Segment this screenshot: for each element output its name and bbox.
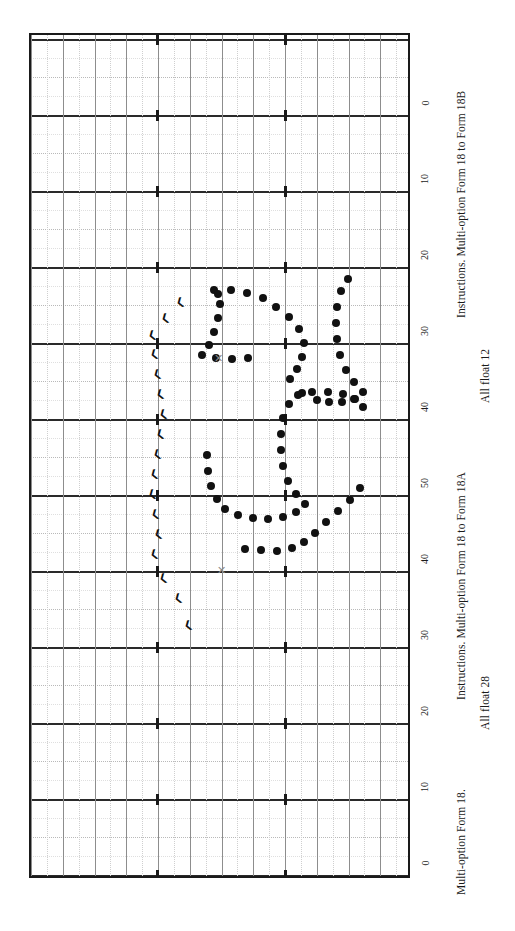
data-point-dot [346, 496, 354, 504]
data-point-dot [295, 325, 303, 333]
wind-barb-icon: ❮ [148, 548, 159, 560]
axis-tick-label-text: 50 [415, 478, 435, 488]
axis-tick-label: 20 [415, 245, 435, 285]
data-point-dot [308, 388, 316, 396]
wind-barb-icon: ❮ [157, 572, 168, 584]
data-point-dot [207, 482, 215, 490]
data-point-dot [342, 366, 350, 374]
axis-tick-label: 40 [415, 549, 435, 589]
data-point-dot [273, 547, 281, 555]
wind-barb-icon: ❮ [149, 508, 160, 520]
axis-tick-label: 30 [415, 321, 435, 361]
axis-tick-label-text: 0 [415, 101, 435, 106]
wind-barb-icon: ❮ [152, 528, 163, 540]
data-point-dot [338, 398, 346, 406]
data-point-dot [244, 354, 252, 362]
data-point-dot [234, 511, 242, 519]
data-point-dot [284, 477, 292, 485]
data-point-dot [288, 544, 296, 552]
data-point-dot [337, 287, 345, 295]
axis-tick-label-text: 10 [415, 174, 435, 184]
wind-barb-icon: ❮ [151, 368, 162, 380]
data-point-dot [279, 462, 287, 470]
data-point-dot [279, 414, 287, 422]
data-point-dot [214, 314, 222, 322]
data-point-dot [350, 378, 358, 386]
data-point-dot [277, 446, 285, 454]
axis-tick-label-text: 20 [415, 250, 435, 260]
axis-tick-label: 30 [415, 625, 435, 665]
data-point-dot [285, 400, 293, 408]
data-point-dot [334, 507, 342, 515]
data-point-dot [213, 495, 221, 503]
axis-tick-label: 0 [415, 853, 435, 893]
axis-tick-label: 50 [415, 473, 435, 513]
caption-lower-title: Multi-option Form 18. [455, 789, 467, 895]
data-point-dot [311, 529, 319, 537]
data-point-dot [257, 546, 265, 554]
data-point-dot [205, 341, 213, 349]
wind-barb-icon: ❮ [182, 619, 193, 631]
axis-tick-label-text: 40 [415, 402, 435, 412]
data-point-dot [277, 430, 285, 438]
data-point-dot [279, 513, 287, 521]
data-marks-layer: ✕✕❮❮❮❮❮❮❮❮❮❮❮❮❮❮❮❮❮ [31, 35, 408, 876]
wind-barb-icon: ❮ [148, 468, 159, 480]
data-point-x-marker: ✕ [217, 565, 226, 576]
data-point-dot [301, 500, 309, 508]
data-point-dot [324, 388, 332, 396]
data-point-dot [285, 313, 293, 321]
data-point-dot [241, 545, 249, 553]
wind-barb-icon: ❮ [174, 296, 185, 308]
wind-barb-icon: ❮ [154, 388, 165, 400]
data-point-dot [294, 391, 302, 399]
axis-tick-label-text: 30 [415, 326, 435, 336]
data-point-dot [356, 484, 364, 492]
data-point-dot [300, 339, 308, 347]
wind-barb-icon: ❮ [148, 348, 159, 360]
data-point-dot [272, 303, 280, 311]
caption-upper-title: Instructions. Multi-option Form 18 to Fo… [455, 91, 467, 318]
data-point-dot [333, 335, 341, 343]
chart-plot-frame: ✕✕❮❮❮❮❮❮❮❮❮❮❮❮❮❮❮❮❮ [29, 33, 410, 878]
data-point-dot [332, 319, 340, 327]
data-point-dot [210, 328, 218, 336]
wind-barb-icon: ❮ [151, 448, 162, 460]
data-point-dot [203, 451, 211, 459]
axis-tick-label: 20 [415, 701, 435, 741]
axis-tick-label-text: 20 [415, 706, 435, 716]
axis-tick-label-text: 0 [415, 861, 435, 866]
data-point-dot [249, 514, 257, 522]
data-point-dot [198, 351, 206, 359]
data-point-dot [243, 289, 251, 297]
data-point-dot [214, 290, 222, 298]
wind-barb-icon: ❮ [172, 592, 183, 604]
caption-upper-float: All float 12 [479, 349, 491, 403]
data-point-dot [259, 294, 267, 302]
data-point-x-marker: ✕ [214, 353, 223, 364]
axis-tick-label-text: 40 [415, 554, 435, 564]
data-point-dot [322, 518, 330, 526]
axis-tick-label: 40 [415, 397, 435, 437]
data-point-dot [313, 396, 321, 404]
data-point-dot [298, 353, 306, 361]
data-point-dot [204, 467, 212, 475]
axis-tick-label-text: 30 [415, 630, 435, 640]
axis-tick-label: 10 [415, 777, 435, 817]
axis-tick-label-text: 10 [415, 782, 435, 792]
data-point-dot [216, 300, 224, 308]
data-point-dot [344, 275, 352, 283]
data-point-dot [221, 505, 229, 513]
wind-barb-icon: ❮ [146, 488, 157, 500]
data-point-dot [293, 365, 301, 373]
data-point-dot [339, 390, 347, 398]
axis-tick-label: 10 [415, 169, 435, 209]
data-point-dot [292, 508, 300, 516]
data-point-dot [325, 398, 333, 406]
wind-barb-icon: ❮ [159, 312, 170, 324]
wind-barb-icon: ❮ [146, 329, 157, 341]
data-point-dot [228, 355, 236, 363]
wind-barb-icon: ❮ [157, 408, 168, 420]
caption-mid-float: All float 28 [479, 676, 491, 730]
caption-mid-title: Instructions. Multi-option Form 18 to Fo… [455, 472, 467, 700]
